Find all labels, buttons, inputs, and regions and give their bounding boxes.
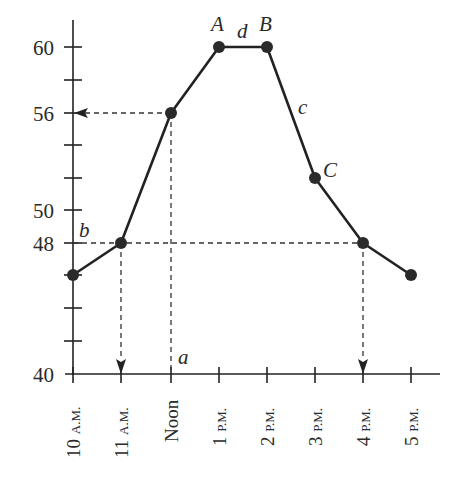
y-label-40: 40 [33, 363, 54, 387]
point-5pm [405, 269, 417, 281]
arrow-down-icon [116, 359, 126, 374]
x-label-noon: Noon [161, 399, 182, 442]
label-C: C [323, 158, 338, 182]
y-label-50: 50 [33, 199, 54, 223]
x-label-3pm: 3 P.M. [305, 408, 326, 446]
x-label-11am: 11 A.M. [111, 408, 132, 459]
label-A: A [209, 12, 224, 36]
point-noon [165, 107, 177, 119]
x-ticks [73, 367, 411, 383]
data-points [67, 41, 417, 281]
x-label-4pm: 4 P.M. [353, 408, 374, 446]
point-10am [67, 269, 79, 281]
label-B: B [259, 12, 272, 36]
label-b: b [79, 218, 90, 242]
y-label-56: 56 [33, 102, 54, 126]
point-A [213, 41, 225, 53]
x-labels: 10 A.M. 11 A.M. Noon 1 P.M. 2 P.M. 3 P.M… [63, 399, 422, 458]
arrow-down-icon [358, 359, 368, 374]
label-c: c [298, 95, 308, 119]
line-chart: 60 56 50 48 40 10 A.M. 11 A.M. Noon 1 P.… [0, 0, 471, 479]
label-a: a [178, 345, 189, 369]
point-C [309, 172, 321, 184]
x-label-2pm: 2 P.M. [257, 408, 278, 446]
y-label-60: 60 [33, 36, 54, 60]
label-d: d [237, 19, 248, 43]
x-label-1pm: 1 P.M. [209, 408, 230, 446]
x-label-10am: 10 A.M. [63, 407, 84, 458]
point-4pm [357, 237, 369, 249]
x-label-5pm: 5 P.M. [401, 408, 422, 446]
point-11am [115, 237, 127, 249]
y-label-48: 48 [33, 232, 54, 256]
point-B [261, 41, 273, 53]
